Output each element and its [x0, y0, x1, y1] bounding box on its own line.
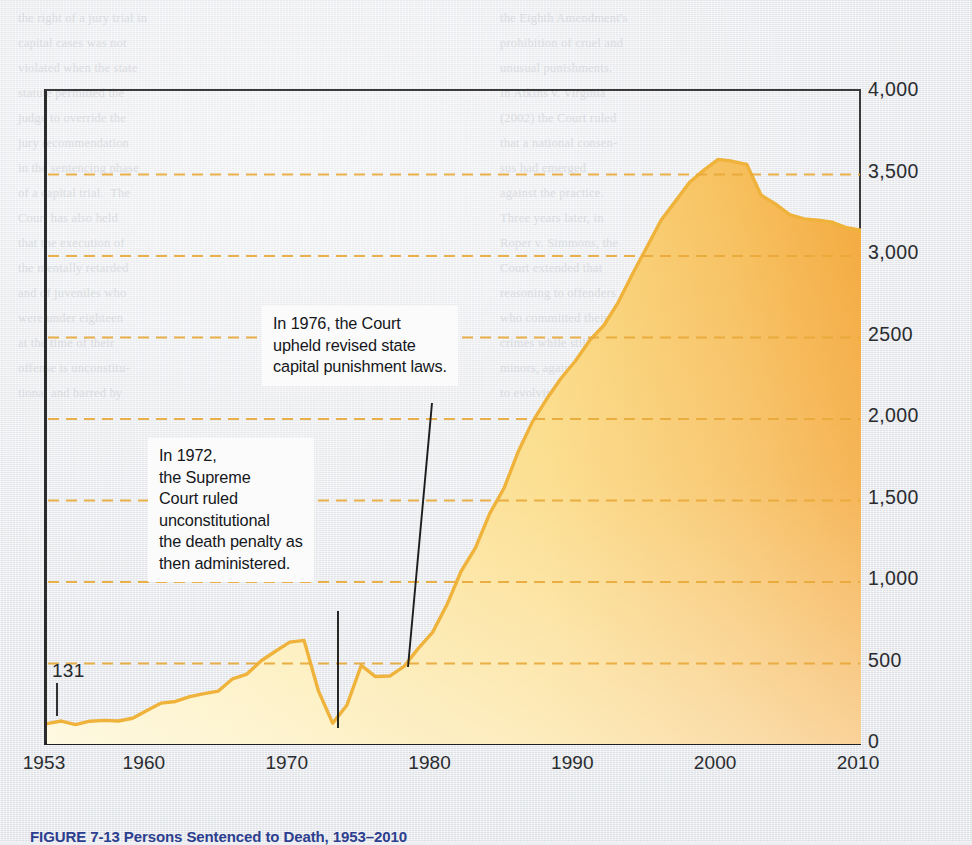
- y-axis-tick-2000: 2,000: [868, 404, 919, 427]
- y-axis-tick-3000: 3,000: [868, 241, 919, 264]
- annotation-callout-1972: In 1972, the Supreme Court ruled unconst…: [148, 438, 314, 582]
- x-axis-tick-1980: 1980: [390, 752, 470, 774]
- figure-caption: FIGURE 7-13 Persons Sentenced to Death, …: [30, 828, 407, 845]
- y-axis-tick-0: 0: [868, 730, 879, 753]
- y-axis-tick-500: 500: [868, 649, 902, 672]
- y-axis-tick-4000: 4,000: [868, 78, 919, 101]
- x-axis-tick-1960: 1960: [104, 752, 184, 774]
- annotation-callout-1976: In 1976, the Court upheld revised state …: [262, 306, 458, 386]
- y-axis-tick-1500: 1,500: [868, 486, 919, 509]
- x-axis-tick-2010: 2010: [818, 752, 898, 774]
- x-axis-tick-1990: 1990: [532, 752, 612, 774]
- x-axis-tick-1970: 1970: [247, 752, 327, 774]
- x-axis-tick-1953: 1953: [4, 752, 84, 774]
- data-value-label-131: 131: [52, 660, 85, 682]
- y-axis-tick-2500: 2500: [868, 323, 913, 346]
- y-axis-tick-3500: 3,500: [868, 160, 919, 183]
- x-axis-tick-2000: 2000: [675, 752, 755, 774]
- y-axis-tick-1000: 1,000: [868, 567, 919, 590]
